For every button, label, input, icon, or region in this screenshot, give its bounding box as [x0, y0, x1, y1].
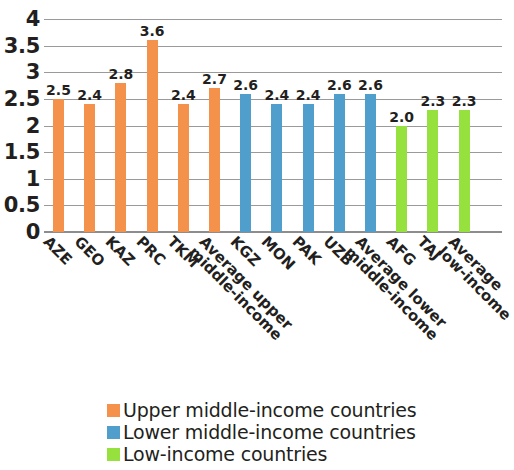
x-axis-tick-label: PRC: [133, 234, 168, 269]
legend-swatch-icon: [107, 404, 120, 417]
bar[interactable]: [396, 126, 407, 233]
y-axis-tick-label: 0: [0, 222, 40, 243]
legend-item[interactable]: Upper middle-income countries: [107, 399, 437, 421]
bar[interactable]: [240, 94, 251, 232]
gridline: [44, 19, 502, 20]
x-axis-tick-label: KAZ: [102, 234, 137, 269]
y-axis-tick-label: 1: [0, 168, 40, 189]
x-axis-tick-label: AZE: [40, 234, 74, 268]
chart-legend: Upper middle-income countriesLower middl…: [107, 399, 437, 465]
bar-value-label: 2.8: [101, 67, 141, 81]
y-axis-tick-label: 0.5: [0, 195, 40, 216]
legend-item[interactable]: Low-income countries: [107, 443, 437, 465]
y-axis-tick-label: 2: [0, 115, 40, 136]
bar[interactable]: [209, 88, 220, 232]
bar-value-label: 2.4: [70, 88, 110, 102]
bar[interactable]: [115, 83, 126, 232]
bar[interactable]: [365, 94, 376, 232]
x-axis-tick-label: Averagelow-income: [434, 234, 514, 324]
legend-label: Low-income countries: [123, 445, 327, 464]
bar-value-label: 2.0: [382, 110, 422, 124]
legend-item[interactable]: Lower middle-income countries: [107, 421, 437, 443]
bar[interactable]: [84, 104, 95, 232]
x-axis-tick-label: MON: [258, 234, 297, 273]
bar[interactable]: [427, 110, 438, 232]
bar[interactable]: [303, 104, 314, 232]
gridline: [44, 46, 502, 47]
bar-value-label: 2.4: [163, 88, 203, 102]
y-axis-tick-label: 4: [0, 9, 40, 30]
y-axis-tick-label: 1.5: [0, 142, 40, 163]
bar[interactable]: [459, 110, 470, 232]
legend-swatch-icon: [107, 426, 120, 439]
y-axis-tick-label: 2.5: [0, 88, 40, 109]
x-axis-tick-label: GEO: [71, 234, 107, 270]
legend-label: Upper middle-income countries: [123, 401, 416, 420]
bar[interactable]: [271, 104, 282, 232]
bar-value-label: 2.3: [444, 94, 484, 108]
y-axis-tick-label: 3: [0, 62, 40, 83]
bar[interactable]: [147, 40, 158, 232]
y-axis-tick-label: 3.5: [0, 35, 40, 56]
bar[interactable]: [53, 99, 64, 232]
legend-swatch-icon: [107, 448, 120, 461]
bar-value-label: 2.6: [351, 78, 391, 92]
bar[interactable]: [178, 104, 189, 232]
y-axis-tick-labels: 00.511.522.533.54: [0, 19, 40, 232]
legend-label: Lower middle-income countries: [123, 423, 416, 442]
bar-value-label: 3.6: [132, 24, 172, 38]
x-axis-tick-labels: AZEGEOKAZPRCTKMAverage uppermiddle-incom…: [44, 234, 507, 354]
bar[interactable]: [334, 94, 345, 232]
plot-area: 2.52.42.83.62.42.72.62.42.42.62.62.02.32…: [44, 19, 502, 232]
